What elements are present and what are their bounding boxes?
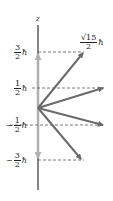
- level-label-3-2: 32ħ: [14, 44, 27, 61]
- spin-vector-neg-1-2: [38, 108, 103, 125]
- spin-vector-diagram: [0, 0, 113, 201]
- level-label-1-2: 12ħ: [14, 80, 27, 97]
- level-label-neg-3-2: −32ħ: [6, 152, 27, 169]
- magnitude-label: √152ħ: [80, 34, 103, 51]
- spin-vector-neg-3-2: [38, 108, 81, 159]
- spin-vector-3-2: [38, 53, 83, 108]
- level-label-neg-1-2: −12ħ: [6, 117, 27, 134]
- spin-vector-1-2: [38, 88, 103, 108]
- axis-label-z: z: [36, 16, 40, 23]
